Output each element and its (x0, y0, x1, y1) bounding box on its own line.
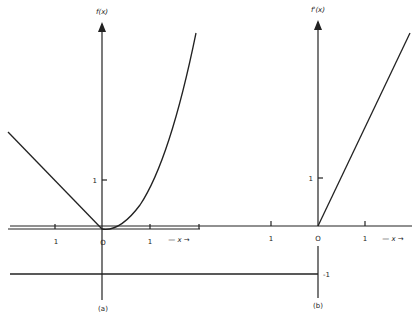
panel-a: f(x) 1 O 1 1 — x → (a) (8, 8, 200, 313)
ylabel-b: f'(x) (311, 6, 325, 14)
x-arrow-label-a: — x → (168, 236, 190, 244)
x-tick-label-left-b: 1 (269, 235, 273, 243)
curve-right-branch-a (102, 33, 196, 229)
caption-b: (b) (313, 302, 323, 310)
y-axis-arrow-icon (314, 20, 322, 30)
origin-label-b: O (315, 235, 321, 243)
y-tick-neg-label-b: -1 (323, 271, 330, 279)
x-tick-label-right-a: 1 (148, 238, 152, 246)
x-tick-label-right-b: 1 (363, 235, 367, 243)
y-axis-arrow-icon (98, 22, 106, 32)
curve-left-branch-a (8, 132, 102, 229)
curve-right-branch-b (318, 33, 410, 226)
x-arrow-label-b: — x → (382, 235, 404, 243)
caption-a: (a) (98, 305, 108, 313)
figure: f(x) 1 O 1 1 — x → (a) f'(x) 1 O 1 1 -1 … (0, 0, 418, 316)
y-tick-label-b: 1 (309, 175, 313, 183)
origin-label-a: O (100, 239, 106, 247)
ylabel-a: f(x) (96, 8, 108, 16)
x-tick-label-left-a: 1 (54, 238, 58, 246)
y-tick-label-a: 1 (93, 177, 97, 185)
panel-b: f'(x) 1 O 1 1 -1 — x → (b) (10, 6, 412, 310)
